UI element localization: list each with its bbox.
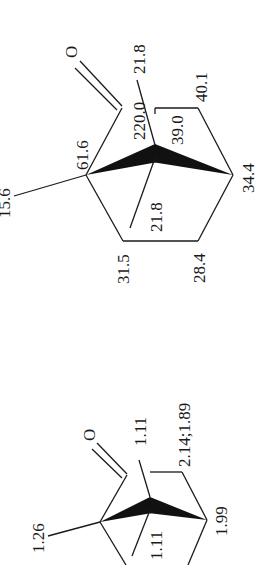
structure-diagram: O 220.0 21.8 40.1 39.0 61.6 34.4 15.6 21… [0,0,261,565]
bond-methyl-c1 [48,522,100,536]
label-top-ch2: 40.1 [192,72,211,102]
label-top-methyl-upper: 21.8 [130,44,149,74]
label-top-c5: 28.4 [190,253,209,283]
label-bottom-methyl-lower: 1.11 [147,531,166,560]
oxygen-label-bottom: O [80,429,99,441]
label-top-c7: 39.0 [168,115,187,145]
wedge-bond-right [152,144,233,175]
label-top-c1: 61.6 [73,140,92,170]
label-bottom-c4: 1.99 [212,506,231,536]
bottom-structure: O 1.11 2.14;1.89 1.26 1.11 1.99 [29,403,231,565]
label-bottom-ch2: 2.14;1.89 [175,403,194,467]
label-bottom-methyl-upper: 1.11 [131,417,150,446]
bond-methyl-upper [139,460,150,497]
bond-c1-c6 [100,522,126,565]
bond-c5-c4 [198,175,233,241]
label-top-methyl-lower: 21.8 [147,202,166,232]
label-top-carbonyl: 220.0 [130,102,149,140]
bond-c4-c5 [188,520,207,565]
label-top-c4: 34.4 [239,163,258,193]
carbonyl-double-bond-b [75,68,117,110]
bond-methyl-c1 [14,175,86,196]
carbonyl-double-bond-a [80,61,122,106]
oxygen-label-top: O [62,46,81,58]
label-top-methyl-c1: 15.6 [0,188,14,218]
top-structure: O 220.0 21.8 40.1 39.0 61.6 34.4 15.6 21… [0,44,258,284]
wedge-bond-right [148,497,207,520]
wedge-bond-left [86,144,158,175]
bond-c1-c6 [86,175,123,241]
label-top-c6: 31.5 [114,254,133,284]
label-bottom-methyl-c1: 1.26 [29,523,48,553]
